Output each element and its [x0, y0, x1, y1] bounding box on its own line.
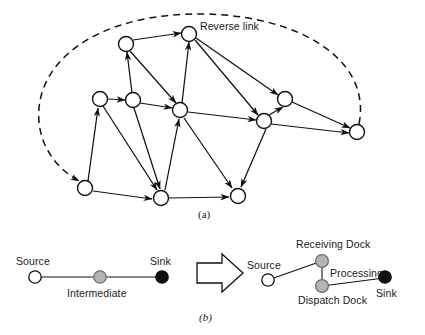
reverse-link-edge: [39, 14, 361, 181]
graph-node-n2[interactable]: [182, 27, 197, 42]
edge-n2-n7: [195, 40, 258, 115]
transform-arrow: [197, 254, 243, 292]
graph-node-n6[interactable]: [278, 92, 293, 107]
node-intermediate[interactable]: [94, 271, 106, 283]
graph-node-n10[interactable]: [154, 191, 169, 206]
panel-a-caption: (a): [198, 208, 210, 220]
edge-n3-n4: [108, 99, 125, 100]
edge-n10-n5: [165, 119, 179, 190]
graph-node-n4[interactable]: [126, 93, 141, 108]
graph-node-n7[interactable]: [257, 114, 272, 129]
edge-n4-n1: [127, 52, 132, 93]
edge-n6-n8: [292, 102, 350, 128]
edge-n4-n5: [140, 103, 172, 108]
graph-node-n11[interactable]: [231, 189, 246, 204]
node-source-left[interactable]: [29, 271, 41, 283]
node-source-right[interactable]: [262, 274, 274, 286]
edge-n5-n11: [184, 118, 232, 188]
label-sink-left: Sink: [150, 255, 171, 267]
figure-container: Reverse link (a) Source Intermediate Sin…: [0, 0, 425, 335]
graph-node-n3[interactable]: [93, 92, 108, 107]
label-source-right: Source: [247, 259, 281, 271]
link-dispatch-sink: [322, 278, 384, 286]
label-intermediate: Intermediate: [67, 287, 127, 299]
graph-node-n1[interactable]: [119, 37, 134, 52]
label-source-left: Source: [16, 255, 50, 267]
edge-n3-n10: [103, 106, 157, 190]
edge-n1-n2: [133, 33, 181, 40]
label-receiving-dock: Receiving Dock: [296, 238, 370, 250]
graph-edges: [88, 33, 350, 199]
edge-n9-n3: [88, 108, 98, 181]
edge-n10-n11: [169, 197, 229, 198]
node-sink-left[interactable]: [156, 271, 168, 283]
label-processing: Processing: [330, 267, 383, 279]
edge-n4-n10: [134, 108, 160, 189]
panel-a-graph: [39, 14, 365, 206]
graph-node-n9[interactable]: [78, 181, 93, 196]
edge-n5-n2: [182, 42, 189, 103]
label-sink-right: Sink: [376, 287, 397, 299]
block-arrow-right-icon: [197, 254, 243, 292]
graph-node-n8[interactable]: [350, 125, 365, 140]
edge-n5-n7: [188, 112, 256, 120]
figure-canvas: [0, 0, 425, 335]
edge-n9-n10: [93, 191, 152, 199]
reverse-link-label: Reverse link: [200, 20, 259, 32]
edge-n7-n11: [241, 129, 266, 187]
graph-node-n5[interactable]: [173, 103, 188, 118]
edge-n7-n6: [269, 107, 283, 115]
node-dispatch-dock[interactable]: [316, 280, 329, 293]
label-dispatch-dock: Dispatch Dock: [298, 294, 367, 306]
edge-n7-n8: [271, 124, 349, 133]
panel-b-caption: (b): [199, 311, 212, 323]
edge-n2-n6: [196, 38, 278, 95]
node-receiving-dock[interactable]: [316, 255, 329, 268]
panel-b-left-diagram: [29, 271, 168, 283]
